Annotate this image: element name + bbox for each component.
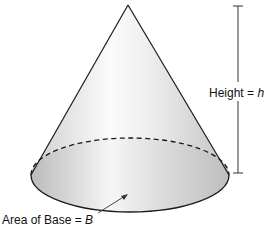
cone-figure: Height = h Area of Base = B xyxy=(0,0,270,228)
cone-diagram: Height = h Area of Base = B xyxy=(0,0,270,228)
height-label: Height = h xyxy=(209,86,264,100)
base-label: Area of Base = B xyxy=(2,213,93,227)
